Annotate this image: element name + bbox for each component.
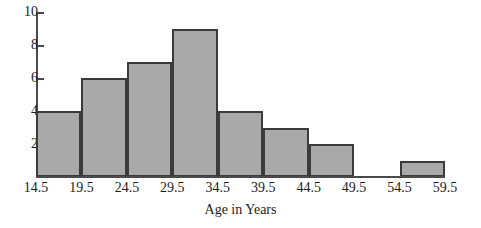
histogram-figure: 10 8 6 4 2 14.519.524.529.534.539.544.54…: [0, 0, 481, 228]
y-tick-label: 4: [12, 104, 38, 118]
x-tick-label: 14.5: [14, 181, 58, 195]
x-tick-label: 34.5: [196, 181, 240, 195]
x-axis-line: [36, 176, 445, 178]
histogram-bar: [218, 111, 263, 177]
scan-artifact-band: [0, 0, 481, 9]
histogram-bar: [81, 78, 126, 177]
histogram-bar: [36, 111, 81, 177]
histogram-bar: [172, 29, 217, 178]
x-tick-label: 44.5: [287, 181, 331, 195]
x-tick-label: 24.5: [105, 181, 149, 195]
histogram-bar: [400, 161, 445, 178]
y-tick-label: 6: [12, 71, 38, 85]
histogram-bars: [36, 12, 445, 178]
x-tick-label: 59.5: [423, 181, 467, 195]
x-tick-label: 19.5: [59, 181, 103, 195]
y-tick-label: 2: [12, 137, 38, 151]
x-tick-label: 29.5: [150, 181, 194, 195]
histogram-bar: [263, 128, 308, 178]
y-tick-label: 10: [12, 5, 38, 19]
x-tick-label: 39.5: [241, 181, 285, 195]
x-axis-title: Age in Years: [0, 203, 481, 217]
histogram-bar: [127, 62, 172, 178]
x-tick-label: 49.5: [332, 181, 376, 195]
histogram-bar: [309, 144, 354, 177]
x-tick-label: 54.5: [378, 181, 422, 195]
y-tick-label: 8: [12, 38, 38, 52]
